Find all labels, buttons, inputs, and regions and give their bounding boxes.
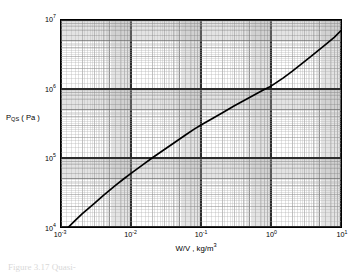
y-tick-label: 107	[32, 15, 56, 24]
x-tick-label: 10-2	[124, 230, 137, 239]
y-tick-label: 105	[32, 154, 56, 163]
x-tick-label: 100	[266, 230, 277, 239]
plot-area	[60, 19, 342, 228]
y-tick-label: 106	[32, 84, 56, 93]
x-tick-label: 10-1	[195, 230, 208, 239]
y-axis-label: PQS ( Pa )	[6, 113, 40, 122]
x-tick-label: 101	[337, 230, 348, 239]
figure-caption: Figure 3.17 Quasi-	[8, 262, 76, 272]
data-curve	[61, 20, 341, 227]
y-tick-label: 104	[32, 224, 56, 233]
x-axis-label: W/V , kg/m3	[175, 244, 216, 253]
